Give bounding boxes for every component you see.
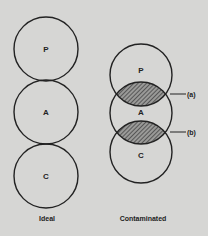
- contaminated-label-p: P: [138, 66, 144, 75]
- ideal-label-p: P: [43, 45, 49, 54]
- overlap-label-a: (a): [187, 91, 196, 99]
- contaminated-label-a: A: [138, 108, 144, 117]
- contaminated-label-c: C: [138, 151, 144, 160]
- ideal-label-c: C: [43, 172, 49, 181]
- contaminated-caption: Contaminated: [120, 215, 167, 222]
- overlap-label-b: (b): [187, 129, 196, 137]
- ideal-label-a: A: [43, 108, 49, 117]
- ideal-caption: Ideal: [39, 215, 55, 222]
- ideal-group: P A C Ideal: [14, 17, 78, 222]
- contaminated-group: P A C (a) (b) Contaminated: [110, 44, 196, 222]
- diagram-canvas: P A C Ideal P A C (a) (b) Contaminated: [0, 0, 208, 236]
